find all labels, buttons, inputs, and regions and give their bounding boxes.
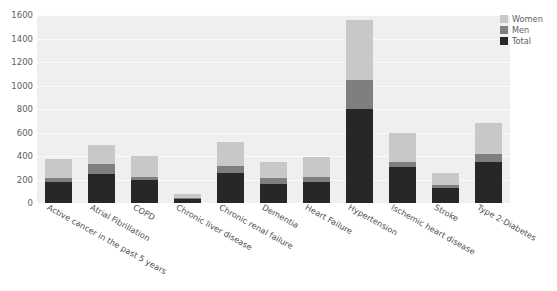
bar-segment-total bbox=[260, 184, 287, 203]
chart-legend: WomenMenTotal bbox=[500, 14, 557, 47]
legend-label: Men bbox=[512, 26, 529, 34]
bar-segment-total bbox=[432, 188, 459, 203]
bar-segment-total bbox=[475, 162, 502, 203]
bar-series-container bbox=[37, 15, 510, 203]
bar-segment-total bbox=[389, 167, 416, 203]
bar-segment-total bbox=[174, 199, 201, 203]
legend-swatch-icon bbox=[500, 26, 508, 34]
legend-swatch-icon bbox=[500, 15, 508, 23]
x-axis-tick-labels: Active cancer in the past 5 yearsAtrial … bbox=[37, 203, 510, 291]
bar-segment-total bbox=[346, 109, 373, 203]
legend-swatch-icon bbox=[500, 37, 508, 45]
bar-group[interactable] bbox=[88, 15, 115, 203]
bar-group[interactable] bbox=[432, 15, 459, 203]
bar-segment-total bbox=[88, 174, 115, 203]
bar-group[interactable] bbox=[45, 15, 72, 203]
x-axis-tick-label: Dementia bbox=[261, 203, 300, 230]
bar-segment-total bbox=[45, 182, 72, 203]
bar-segment-total bbox=[303, 182, 330, 203]
bar-segment-total bbox=[217, 173, 244, 203]
y-axis-tick-label: 800 bbox=[17, 105, 33, 114]
y-axis-tick-label: 1200 bbox=[11, 58, 33, 67]
bar-group[interactable] bbox=[303, 15, 330, 203]
y-axis-tick-label: 1400 bbox=[11, 34, 33, 43]
x-axis-tick-label: Heart Failure bbox=[304, 203, 354, 236]
x-axis-tick-label: Stroke bbox=[433, 203, 460, 223]
bar-chart: 02004006008001000120014001600 Active can… bbox=[0, 0, 557, 291]
bar-segment-total bbox=[131, 180, 158, 203]
x-axis-tick-label: Chronic liver disease bbox=[175, 203, 253, 251]
y-axis-tick-label: 400 bbox=[17, 152, 33, 161]
legend-item[interactable]: Men bbox=[500, 25, 557, 35]
bar-group[interactable] bbox=[217, 15, 244, 203]
legend-item[interactable]: Women bbox=[500, 14, 557, 24]
x-axis-tick-label: COPD bbox=[132, 203, 156, 222]
x-axis-tick-label: Chronic renal failure bbox=[218, 203, 294, 250]
legend-label: Total bbox=[512, 37, 531, 45]
y-axis-tick-label: 200 bbox=[17, 175, 33, 184]
bar-group[interactable] bbox=[346, 15, 373, 203]
bar-group[interactable] bbox=[389, 15, 416, 203]
y-axis-tick-label: 0 bbox=[28, 199, 33, 208]
bar-group[interactable] bbox=[475, 15, 502, 203]
y-axis-tick-label: 1600 bbox=[11, 11, 33, 20]
bar-group[interactable] bbox=[260, 15, 287, 203]
y-axis: 02004006008001000120014001600 bbox=[0, 15, 33, 203]
y-axis-tick-label: 1000 bbox=[11, 81, 33, 90]
y-axis-tick-label: 600 bbox=[17, 128, 33, 137]
legend-label: Women bbox=[512, 15, 543, 23]
legend-item[interactable]: Total bbox=[500, 36, 557, 46]
bar-group[interactable] bbox=[174, 15, 201, 203]
x-axis-tick-label: Type 2-Diabetes bbox=[476, 203, 538, 242]
bar-group[interactable] bbox=[131, 15, 158, 203]
